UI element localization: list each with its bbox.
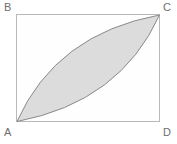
vertex-label-b: B — [4, 2, 11, 13]
vertex-label-a: A — [4, 127, 11, 138]
vertex-label-c: C — [163, 2, 171, 13]
vertex-label-d: D — [163, 127, 171, 138]
geometry-figure: B C A D — [0, 0, 177, 144]
figure-canvas — [0, 0, 177, 144]
